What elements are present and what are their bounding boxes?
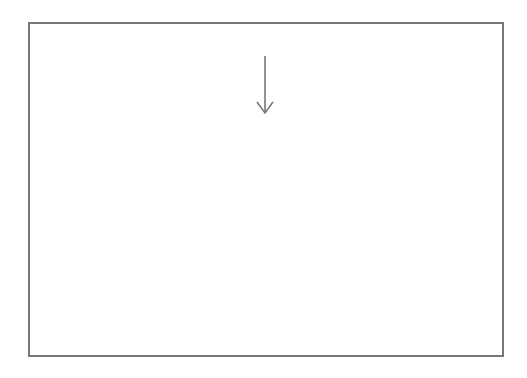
down-arrow-icon	[257, 56, 273, 113]
figure-frame	[29, 23, 503, 356]
tuning-curve-figure	[0, 0, 527, 378]
